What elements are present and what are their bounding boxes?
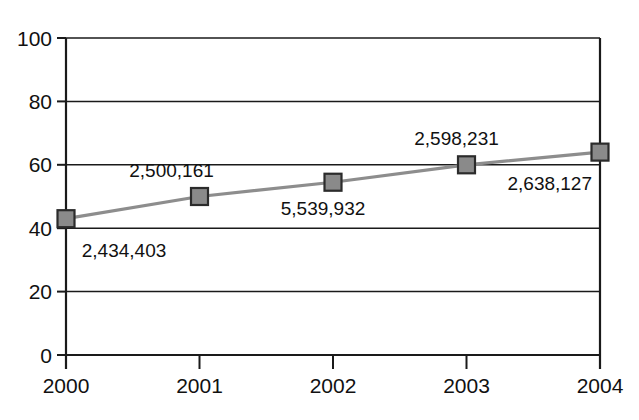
series-marker-point	[458, 156, 475, 173]
data-point-label: 2,500,161	[129, 160, 214, 181]
data-point-label: 5,539,932	[281, 198, 366, 219]
series-marker-point	[325, 174, 342, 191]
series-marker-point	[592, 144, 609, 161]
data-point-labels: 2,434,4032,500,1615,539,9322,598,2312,63…	[82, 128, 592, 261]
x-tick-label: 2003	[443, 374, 490, 397]
series-marker-point	[58, 210, 75, 227]
y-tick-label: 40	[29, 217, 52, 240]
x-tick-label: 2001	[176, 374, 223, 397]
y-tick-label: 100	[17, 27, 52, 50]
x-tick-label: 2000	[43, 374, 90, 397]
chart-canvas: 020406080100 20002001200220032004 2,434,…	[0, 0, 639, 420]
x-tick-label: 2004	[577, 374, 624, 397]
y-tick-label: 0	[40, 344, 52, 367]
data-point-label: 2,638,127	[507, 173, 592, 194]
y-tick-label: 20	[29, 280, 52, 303]
data-point-label: 2,598,231	[414, 128, 499, 149]
data-point-label: 2,434,403	[82, 240, 167, 261]
series-marker-point	[191, 188, 208, 205]
y-axis-ticks: 020406080100	[17, 27, 66, 367]
y-tick-label: 60	[29, 153, 52, 176]
x-tick-label: 2002	[310, 374, 357, 397]
y-tick-label: 80	[29, 90, 52, 113]
x-axis-ticks: 20002001200220032004	[43, 355, 624, 397]
line-chart: 020406080100 20002001200220032004 2,434,…	[0, 0, 639, 420]
